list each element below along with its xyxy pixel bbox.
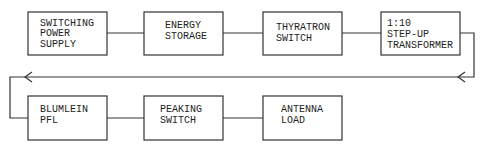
block-label-line: SWITCH: [160, 115, 196, 126]
block-label-line: PEAKING: [160, 104, 202, 115]
block-label-line: 1:10: [387, 18, 411, 29]
block-label-line: ANTENNA: [281, 104, 323, 115]
block-label-line: THYRATRON: [276, 22, 330, 33]
block-label-line: BLUMLEIN: [40, 104, 88, 115]
block-switching-power-supply: SWITCHING POWER SUPPLY: [28, 12, 107, 55]
block-energy-storage: ENERGY STORAGE: [144, 12, 223, 55]
block-peaking-switch: PEAKING SWITCH: [144, 96, 223, 140]
block-diagram: SWITCHING POWER SUPPLY ENERGY STORAGE TH…: [0, 0, 483, 153]
block-thyratron-switch: THYRATRON SWITCH: [263, 12, 342, 55]
block-antenna-load: ANTENNA LOAD: [263, 96, 342, 140]
block-label-line: ENERGY: [165, 20, 201, 31]
block-step-up-transformer: 1:10 STEP-UP TRANSFORMER: [381, 12, 460, 55]
block-label-line: STORAGE: [165, 31, 207, 42]
block-label-line: STEP-UP: [387, 29, 429, 40]
block-label-line: TRANSFORMER: [387, 40, 453, 51]
block-label-line: POWER: [40, 28, 70, 39]
block-label-line: LOAD: [281, 115, 305, 126]
block-blumlein-pfl: BLUMLEIN PFL: [28, 96, 107, 140]
block-label-line: PFL: [40, 115, 58, 126]
block-label-line: SUPPLY: [40, 39, 76, 50]
block-label-line: SWITCH: [276, 33, 312, 44]
